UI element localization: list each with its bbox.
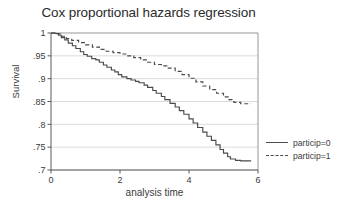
chart-legend: particip=0 particip=1 bbox=[266, 136, 331, 162]
legend-key-dashed bbox=[266, 155, 288, 156]
series-line-particip-0 bbox=[51, 33, 251, 161]
y-tick-label: .95 bbox=[33, 51, 46, 61]
x-tick-label: 4 bbox=[186, 175, 191, 185]
x-tick-label: 6 bbox=[255, 175, 260, 185]
cox-regression-chart: Cox proportional hazards regression Surv… bbox=[0, 0, 339, 210]
y-tick-label: 1 bbox=[40, 28, 45, 38]
y-tick-label: .9 bbox=[38, 74, 46, 84]
legend-item-particip-0: particip=0 bbox=[266, 136, 331, 149]
legend-key-solid bbox=[266, 142, 288, 143]
y-tick-label: .7 bbox=[38, 165, 46, 175]
plot-area: 1.95.9.85.8.75.70246 bbox=[0, 0, 339, 210]
y-tick-label: .85 bbox=[33, 97, 46, 107]
x-tick-label: 0 bbox=[48, 175, 53, 185]
y-tick-label: .8 bbox=[38, 120, 46, 130]
series-line-particip-1 bbox=[51, 33, 251, 104]
legend-label-particip-0: particip=0 bbox=[293, 138, 331, 148]
x-tick-label: 2 bbox=[117, 175, 122, 185]
y-tick-label: .75 bbox=[33, 142, 46, 152]
legend-label-particip-1: particip=1 bbox=[293, 151, 331, 161]
legend-item-particip-1: particip=1 bbox=[266, 149, 331, 162]
